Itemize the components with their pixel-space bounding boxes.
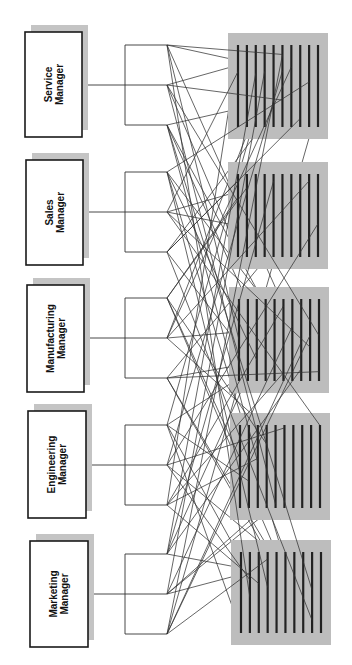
manager-box-manufacturing: ManufacturingManager — [27, 278, 90, 392]
manager-label: EngineeringManager — [46, 436, 68, 494]
manager-boxes: ServiceManagerSalesManagerManufacturingM… — [25, 25, 94, 647]
manager-label: ServiceManager — [43, 64, 65, 105]
manager-box-sales: SalesManager — [26, 153, 89, 265]
worker-pool-3 — [229, 287, 329, 393]
manager-brackets — [82, 45, 167, 634]
bracket-sales — [125, 172, 167, 252]
manager-label: MarketingManager — [48, 570, 70, 617]
worker-pool-5 — [231, 540, 331, 645]
pool-background — [231, 540, 331, 645]
pool-background — [229, 287, 329, 393]
bracket-manufacturing — [125, 298, 167, 378]
matrix-organization-diagram: ServiceManagerSalesManagerManufacturingM… — [0, 0, 352, 665]
bracket-service — [125, 45, 167, 125]
manager-box-engineering: EngineeringManager — [28, 404, 92, 518]
manager-box-service: ServiceManager — [25, 25, 88, 137]
bracket-marketing — [125, 554, 167, 634]
cross-connection — [167, 425, 241, 631]
bracket-engineering — [125, 425, 167, 505]
manager-box-marketing: MarketingManager — [30, 534, 94, 647]
